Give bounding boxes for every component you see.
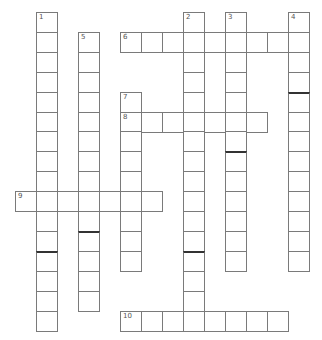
crossword-cell[interactable] [183, 72, 205, 93]
crossword-cell[interactable] [288, 231, 310, 252]
crossword-cell[interactable] [36, 271, 58, 292]
crossword-cell[interactable] [36, 92, 58, 113]
crossword-cell[interactable] [78, 211, 100, 232]
crossword-cell[interactable] [183, 291, 205, 312]
crossword-cell[interactable] [225, 211, 247, 232]
crossword-cell[interactable] [120, 231, 142, 252]
crossword-cell[interactable] [36, 171, 58, 192]
crossword-cell[interactable] [36, 191, 58, 212]
crossword-cell[interactable] [288, 92, 310, 113]
crossword-cell[interactable] [288, 251, 310, 272]
crossword-cell[interactable] [78, 151, 100, 172]
crossword-cell[interactable] [57, 191, 79, 212]
crossword-cell[interactable] [288, 211, 310, 232]
crossword-cell[interactable] [78, 191, 100, 212]
crossword-cell[interactable] [183, 271, 205, 292]
crossword-cell[interactable] [141, 191, 163, 212]
crossword-cell[interactable] [225, 52, 247, 73]
crossword-cell[interactable] [183, 151, 205, 172]
crossword-cell[interactable] [141, 311, 163, 332]
crossword-cell[interactable] [36, 52, 58, 73]
crossword-cell[interactable] [183, 92, 205, 113]
crossword-cell[interactable]: 2 [183, 12, 205, 33]
crossword-cell[interactable]: 9 [15, 191, 37, 212]
crossword-cell[interactable] [225, 72, 247, 93]
crossword-cell[interactable] [78, 72, 100, 93]
crossword-cell[interactable]: 3 [225, 12, 247, 33]
crossword-cell[interactable] [120, 131, 142, 152]
crossword-cell[interactable] [288, 112, 310, 133]
crossword-cell[interactable] [288, 151, 310, 172]
crossword-cell[interactable] [141, 112, 163, 133]
crossword-cell[interactable] [225, 251, 247, 272]
crossword-cell[interactable] [288, 72, 310, 93]
crossword-cell[interactable] [78, 271, 100, 292]
crossword-cell[interactable] [183, 191, 205, 212]
crossword-cell[interactable]: 5 [78, 32, 100, 53]
crossword-cell[interactable] [225, 92, 247, 113]
crossword-cell[interactable] [288, 32, 310, 53]
crossword-cell[interactable] [36, 151, 58, 172]
crossword-cell[interactable] [120, 251, 142, 272]
crossword-cell[interactable] [246, 112, 268, 133]
crossword-cell[interactable] [162, 112, 184, 133]
crossword-cell[interactable] [141, 32, 163, 53]
crossword-cell[interactable] [120, 171, 142, 192]
crossword-cell[interactable] [78, 251, 100, 272]
crossword-cell[interactable] [78, 291, 100, 312]
crossword-cell[interactable] [183, 311, 205, 332]
crossword-cell[interactable] [225, 171, 247, 192]
crossword-cell[interactable] [78, 92, 100, 113]
crossword-cell[interactable] [36, 291, 58, 312]
crossword-cell[interactable]: 7 [120, 92, 142, 113]
crossword-cell[interactable] [204, 32, 226, 53]
crossword-cell[interactable] [78, 171, 100, 192]
crossword-cell[interactable] [120, 211, 142, 232]
crossword-cell[interactable] [246, 311, 268, 332]
crossword-cell[interactable] [225, 191, 247, 212]
crossword-cell[interactable] [183, 231, 205, 252]
crossword-cell[interactable]: 4 [288, 12, 310, 33]
crossword-cell[interactable] [204, 112, 226, 133]
crossword-cell[interactable] [288, 171, 310, 192]
crossword-cell[interactable] [120, 151, 142, 172]
crossword-cell[interactable] [99, 191, 121, 212]
crossword-cell[interactable] [78, 112, 100, 133]
crossword-cell[interactable] [288, 131, 310, 152]
crossword-cell[interactable] [288, 191, 310, 212]
crossword-cell[interactable] [225, 112, 247, 133]
crossword-cell[interactable] [78, 231, 100, 252]
crossword-cell[interactable] [225, 311, 247, 332]
crossword-cell[interactable] [225, 231, 247, 252]
crossword-cell[interactable] [36, 72, 58, 93]
crossword-cell[interactable] [78, 52, 100, 73]
crossword-cell[interactable] [183, 211, 205, 232]
crossword-cell[interactable] [36, 311, 58, 332]
crossword-cell[interactable] [36, 231, 58, 252]
crossword-cell[interactable] [162, 32, 184, 53]
crossword-cell[interactable] [162, 311, 184, 332]
crossword-cell[interactable] [36, 251, 58, 272]
crossword-cell[interactable] [78, 131, 100, 152]
crossword-cell[interactable] [120, 191, 142, 212]
crossword-cell[interactable] [267, 311, 289, 332]
crossword-cell[interactable] [183, 171, 205, 192]
crossword-cell[interactable]: 6 [120, 32, 142, 53]
crossword-cell[interactable] [225, 131, 247, 152]
crossword-cell[interactable] [225, 151, 247, 172]
crossword-cell[interactable] [288, 52, 310, 73]
crossword-cell[interactable]: 1 [36, 12, 58, 33]
crossword-cell[interactable] [225, 32, 247, 53]
crossword-cell[interactable] [36, 211, 58, 232]
crossword-cell[interactable] [183, 52, 205, 73]
crossword-cell[interactable] [36, 112, 58, 133]
crossword-cell[interactable] [183, 32, 205, 53]
crossword-cell[interactable] [267, 32, 289, 53]
crossword-cell[interactable] [183, 251, 205, 272]
crossword-cell[interactable] [36, 131, 58, 152]
crossword-cell[interactable] [36, 32, 58, 53]
crossword-cell[interactable] [183, 112, 205, 133]
crossword-cell[interactable]: 8 [120, 112, 142, 133]
crossword-cell[interactable] [246, 32, 268, 53]
crossword-cell[interactable] [183, 131, 205, 152]
